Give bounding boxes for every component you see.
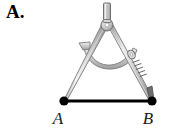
compass-left-needle-leg: [63, 24, 108, 102]
compass-figure: A B: [0, 0, 188, 130]
point-a-label: A: [52, 109, 64, 128]
figure-container: A.: [0, 0, 188, 130]
point-b-dot: [147, 96, 156, 105]
compass-right-pencil-leg: [107, 24, 154, 102]
point-b-label: B: [143, 109, 154, 128]
compass-handle-knob: [103, 3, 111, 23]
segment-ab: [59, 96, 156, 105]
point-a-dot: [59, 96, 68, 105]
